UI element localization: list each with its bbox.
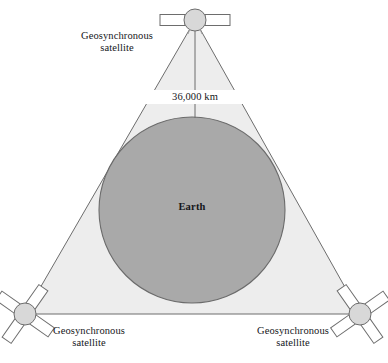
- satellite-coverage-diagram: Geosynchronous satellite 36,000 km Earth…: [0, 0, 388, 363]
- label-bottom-right-satellite: Geosynchronous satellite: [228, 325, 358, 349]
- label-bottom-left-satellite: Geosynchronous satellite: [24, 325, 154, 349]
- satellite-body-icon: [349, 303, 371, 325]
- diagram-canvas: [0, 0, 388, 363]
- satellite-body-icon: [184, 9, 206, 31]
- label-earth: Earth: [152, 201, 232, 213]
- label-orbit-distance: 36,000 km: [140, 90, 250, 104]
- solar-panel-icon: [205, 15, 230, 26]
- label-top-satellite: Geosynchronous satellite: [52, 30, 182, 54]
- solar-panel-icon: [160, 15, 185, 26]
- satellite-body-icon: [14, 303, 36, 325]
